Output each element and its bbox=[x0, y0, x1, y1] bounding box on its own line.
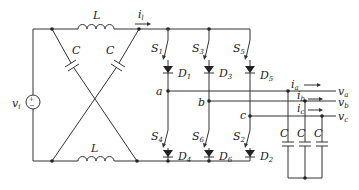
diode-d3-label: D3 bbox=[218, 67, 233, 81]
dc-source: + − vi bbox=[12, 29, 40, 161]
cap-right-label: C bbox=[106, 44, 115, 57]
circuit-svg: + − vi L il L C C bbox=[0, 0, 359, 190]
node-c-label: c bbox=[240, 109, 246, 122]
diode-d6-label: D6 bbox=[218, 150, 233, 164]
leg-a: S1 D1 S4 D4 a bbox=[151, 29, 191, 164]
switch-s2-label: S2 bbox=[233, 130, 246, 144]
switch-s5-label: S5 bbox=[233, 42, 246, 56]
switch-s1-label: S1 bbox=[151, 42, 163, 56]
diode-d5-label: D5 bbox=[259, 69, 274, 83]
inductor-bottom-label: L bbox=[90, 142, 98, 155]
diode-d2-label: D2 bbox=[259, 150, 274, 164]
source-label: vi bbox=[12, 97, 20, 111]
plus-sign: + bbox=[29, 95, 34, 102]
current-ic-label: ic bbox=[297, 102, 305, 116]
diode-d1-label: D1 bbox=[177, 67, 191, 81]
switch-s3-label: S3 bbox=[192, 42, 205, 56]
leg-c: S5 D5 S2 D2 c bbox=[233, 29, 274, 164]
current-il: il bbox=[135, 8, 151, 26]
inductor-top-label: L bbox=[92, 9, 100, 22]
switch-s4-label: S4 bbox=[151, 130, 163, 144]
inductor-bottom: L bbox=[33, 142, 250, 161]
filter-cap-a-label: C bbox=[280, 127, 289, 140]
switch-s6-label: S6 bbox=[192, 130, 205, 144]
filter-cap-b-label: C bbox=[297, 127, 306, 140]
diode-d4-label: D4 bbox=[177, 150, 191, 164]
cap-left-label: C bbox=[72, 44, 81, 57]
node-a-label: a bbox=[156, 85, 163, 98]
minus-sign: − bbox=[29, 102, 35, 110]
z-source-inverter-diagram: + − vi L il L C C bbox=[0, 0, 359, 190]
filter-cap-c-label: C bbox=[314, 127, 323, 140]
node-b-label: b bbox=[198, 96, 205, 109]
current-il-label: il bbox=[138, 8, 144, 22]
leg-b: S3 D3 S6 D6 b bbox=[192, 29, 233, 164]
voltage-vc-label: vc bbox=[338, 110, 348, 124]
